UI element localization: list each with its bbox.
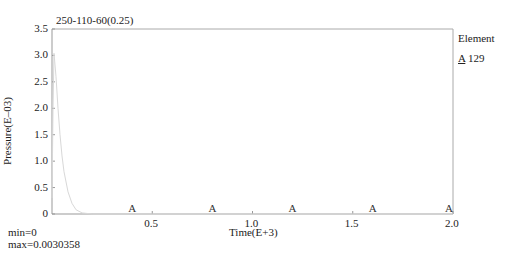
legend-title: Element [458,32,495,44]
legend-marker: A [458,52,465,64]
series-line [52,53,453,214]
series-marker: A [208,202,216,214]
plot-area: AAAAA [0,0,509,258]
series-marker: A [289,202,297,214]
series-marker: A [445,202,453,214]
legend-label: 129 [468,52,485,64]
x-axis-label: Time(E+3) [229,226,278,238]
min-value: min=0 [8,226,37,238]
series-marker: A [369,202,377,214]
legend-entry: A 129 [458,52,485,64]
series-marker: A [128,202,136,214]
max-value: max=0.0030358 [8,238,80,250]
